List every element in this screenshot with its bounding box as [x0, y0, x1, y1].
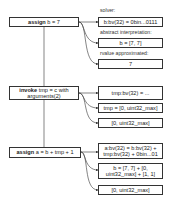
- rvalue-result: [0, uint32_max]: [98, 118, 163, 128]
- rvalue-result: [0, uint32_max]: [98, 185, 163, 195]
- solver-result: a:bv(32) = b:bv(32) + tmp:bv(32) + 0bin.…: [98, 143, 163, 159]
- rvalue-result: 7: [98, 59, 163, 69]
- abstract-interpretation-result: b = [7, 7] + [0, uint32_max] + [1, 1]: [98, 163, 163, 179]
- step-assign-b: assign b = 7: [9, 17, 79, 27]
- abstract-interpretation-label: abstract interpretation:: [100, 29, 152, 35]
- abstract-interpretation-result: tmp = [0, uint32_max]: [98, 103, 163, 113]
- solver-result: b:bv(32) = 0bin...0111: [98, 17, 163, 27]
- rvalue-label: rvalue approximated:: [100, 50, 148, 56]
- step-invoke-tmp: invoke tmp = c with arguments(2): [9, 86, 79, 100]
- solver-result: tmp:bv(32) = ...: [98, 86, 163, 100]
- solver-label: solver:: [100, 7, 115, 13]
- step-assign-a: assign a = b + tmp + 1: [9, 147, 81, 158]
- abstract-interpretation-result: b = [7, 7]: [98, 38, 163, 48]
